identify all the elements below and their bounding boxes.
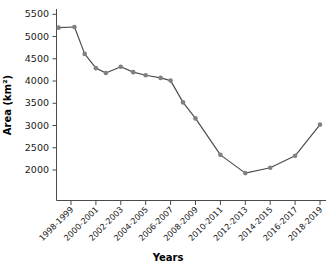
data-point [318, 122, 323, 127]
data-point [56, 25, 61, 30]
y-tick-label: 3000 [25, 120, 49, 131]
y-tick-label: 2000 [25, 164, 49, 175]
data-point [131, 70, 136, 75]
data-point [104, 71, 109, 76]
data-point [119, 64, 124, 69]
y-tick-label: 4500 [25, 53, 49, 64]
data-point [158, 76, 163, 81]
chart-canvas: 20002500300035004000450050005500 1998-19… [0, 0, 330, 268]
data-point [193, 116, 198, 121]
y-axis-title: Area (km²) [2, 75, 13, 135]
data-point [218, 153, 223, 158]
x-axis-title: Years [152, 252, 184, 263]
y-tick-label: 3500 [25, 97, 49, 108]
data-point [94, 66, 99, 71]
data-point [72, 25, 77, 30]
y-tick-label: 5500 [25, 8, 49, 19]
data-point [268, 165, 273, 170]
data-point [243, 171, 248, 176]
y-tick-label: 4000 [25, 75, 49, 86]
data-point [293, 153, 298, 158]
data-point [143, 73, 148, 78]
data-point [82, 52, 87, 57]
data-point [168, 78, 173, 83]
line-chart: 20002500300035004000450050005500 1998-19… [0, 0, 330, 268]
y-tick-label: 2500 [25, 142, 49, 153]
y-tick-label: 5000 [25, 31, 49, 42]
data-point [181, 100, 186, 105]
